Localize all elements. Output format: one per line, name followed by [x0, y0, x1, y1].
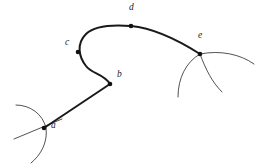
arc-at-e-lower-left-icon: [178, 54, 200, 97]
arc-at-e-right-icon: [200, 52, 254, 64]
arc-at-a-lower-icon: [31, 128, 46, 163]
arc-at-a-upper-icon: [16, 105, 46, 128]
vertex-point-e[interactable]: [198, 52, 203, 57]
arc-at-e-lower-right-icon: [200, 54, 222, 92]
vertex-label-d: d: [129, 3, 134, 13]
vertex-point-b[interactable]: [108, 82, 113, 87]
vertex-point-d[interactable]: [129, 24, 134, 29]
auxiliary-arcs-group: [14, 52, 254, 163]
vertex-point-c[interactable]: [76, 50, 81, 55]
curve-diagram-canvas: [0, 0, 260, 165]
figure-container: abcde: [0, 0, 260, 165]
vertex-point-a[interactable]: [42, 126, 47, 131]
vertex-label-a: a: [51, 121, 56, 131]
vertex-label-e: e: [198, 31, 202, 41]
vertex-label-c: c: [65, 38, 69, 48]
vertex-label-b: b: [117, 70, 122, 80]
